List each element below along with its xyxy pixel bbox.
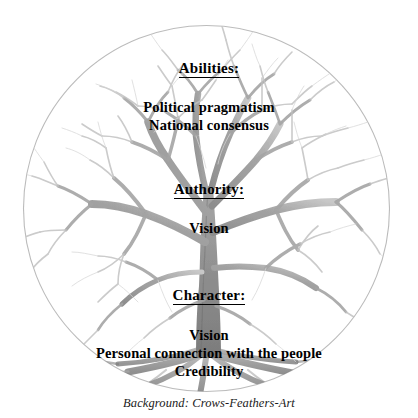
- heading-abilities-label: Abilities:: [179, 60, 239, 78]
- authority-item-0: Vision: [0, 220, 418, 237]
- abilities-item-0: Political pragmatism: [0, 99, 418, 116]
- heading-authority: Authority:: [0, 181, 418, 198]
- heading-abilities: Abilities:: [0, 60, 418, 77]
- character-item-0: Vision: [0, 327, 418, 344]
- heading-character-label: Character:: [173, 287, 246, 305]
- character-item-2: Credibility: [0, 363, 418, 380]
- leadership-tree-figure: Abilities: Political pragmatism National…: [0, 0, 418, 418]
- abilities-item-1: National consensus: [0, 117, 418, 134]
- text-overlay: Abilities: Political pragmatism National…: [0, 0, 418, 418]
- image-credit-caption: Background: Crows-Feathers-Art: [0, 396, 418, 411]
- heading-character: Character:: [0, 287, 418, 304]
- character-item-1: Personal connection with the people: [0, 345, 418, 362]
- heading-authority-label: Authority:: [174, 181, 244, 199]
